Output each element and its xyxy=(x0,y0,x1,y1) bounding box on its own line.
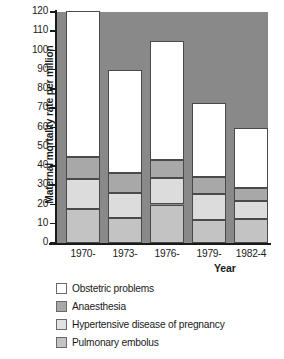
bar-1976- xyxy=(150,12,184,243)
legend-swatch-embolus xyxy=(56,337,67,348)
legend-swatch-obstetric xyxy=(56,283,67,294)
legend-label: Obstetric problems xyxy=(72,283,154,294)
y-tick-mark xyxy=(50,146,57,148)
legend-swatch-hypertensive xyxy=(56,319,67,330)
bar-segment-embolus xyxy=(150,205,184,244)
bar-segment-embolus xyxy=(108,218,142,243)
bar-segment-embolus xyxy=(234,219,268,243)
y-tick-mark xyxy=(50,184,57,186)
legend-item: Pulmonary embolus xyxy=(56,333,282,351)
bar-segment-obstetric xyxy=(66,11,100,157)
y-tick-mark xyxy=(50,107,57,109)
y-tick-mark xyxy=(50,204,57,206)
x-tick-label: 1982-4 xyxy=(224,248,278,259)
bar-segment-anaesthesia xyxy=(234,188,268,201)
y-tick-label: 110 xyxy=(33,24,48,35)
bar-segment-obstetric xyxy=(234,128,268,188)
bar-1982-4 xyxy=(234,12,268,243)
y-tick-label: 120 xyxy=(32,5,48,16)
bar-1970- xyxy=(66,12,100,243)
bar-1973- xyxy=(108,12,142,243)
y-tick-mark xyxy=(50,30,57,32)
y-tick-label: 30 xyxy=(37,178,48,189)
y-tick-mark xyxy=(50,165,57,167)
y-tick-mark xyxy=(50,242,57,244)
bar-segment-hypertensive xyxy=(66,179,100,209)
chart-legend: Obstetric problemsAnaesthesiaHypertensiv… xyxy=(56,279,282,351)
bar-segment-obstetric xyxy=(150,41,184,160)
x-axis-line xyxy=(49,243,271,245)
bar-segment-hypertensive xyxy=(108,193,142,218)
bar-segment-obstetric xyxy=(192,103,226,176)
y-tick-label: 20 xyxy=(37,198,48,209)
x-axis-title: Year xyxy=(214,262,236,274)
legend-item: Hypertensive disease of pregnancy xyxy=(56,315,282,333)
bar-segment-obstetric xyxy=(108,70,142,173)
legend-swatch-anaesthesia xyxy=(56,301,67,312)
y-tick-label: 70 xyxy=(37,101,48,112)
y-tick-label: 60 xyxy=(37,121,48,132)
bar-segment-anaesthesia xyxy=(150,160,184,177)
legend-label: Hypertensive disease of pregnancy xyxy=(72,319,225,330)
bar-1979- xyxy=(192,12,226,243)
bar-segment-embolus xyxy=(66,209,100,243)
legend-item: Obstetric problems xyxy=(56,279,282,297)
bar-segment-anaesthesia xyxy=(192,177,226,194)
y-tick-mark xyxy=(50,127,57,129)
y-tick-label: 90 xyxy=(37,63,48,74)
bar-segment-hypertensive xyxy=(150,178,184,205)
y-tick-mark xyxy=(50,88,57,90)
bar-segment-hypertensive xyxy=(234,201,268,219)
y-tick-label: 100 xyxy=(32,44,48,55)
bar-segment-embolus xyxy=(192,220,226,243)
y-tick-label: 10 xyxy=(37,217,48,228)
legend-label: Anaesthesia xyxy=(72,301,126,312)
bar-segment-anaesthesia xyxy=(108,173,142,193)
y-tick-mark xyxy=(50,69,57,71)
y-tick-label: 50 xyxy=(37,140,48,151)
y-tick-label: 40 xyxy=(37,159,48,170)
y-tick-label: 80 xyxy=(37,82,48,93)
bar-segment-hypertensive xyxy=(192,194,226,220)
y-tick-mark xyxy=(50,11,57,13)
legend-item: Anaesthesia xyxy=(56,297,282,315)
legend-label: Pulmonary embolus xyxy=(72,337,159,348)
y-tick-label: 0 xyxy=(43,236,48,247)
y-tick-mark xyxy=(50,223,57,225)
stacked-bar-chart-figure: Maternal mortality rate per million 1201… xyxy=(0,0,284,359)
y-tick-mark xyxy=(50,50,57,52)
bar-segment-anaesthesia xyxy=(66,157,100,179)
